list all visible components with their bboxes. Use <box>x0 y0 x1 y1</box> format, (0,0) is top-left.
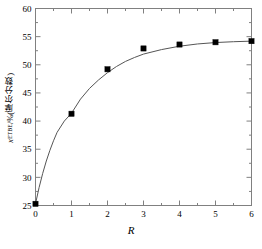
y-tick-label: 60 <box>23 4 33 14</box>
y-axis-tick-labels: 2530354045505560 <box>23 4 33 211</box>
data-point-marker <box>177 42 182 47</box>
y-tick-label: 25 <box>23 201 33 211</box>
x-tick-label: 6 <box>249 209 254 219</box>
y-tick-label: 35 <box>23 144 33 154</box>
x-axis-tick-labels: 0123456 <box>33 209 254 219</box>
y-tick-label: 40 <box>23 116 33 126</box>
axes-frame <box>36 9 252 206</box>
data-point-marker <box>249 39 254 44</box>
y-tick-label: 30 <box>23 173 33 183</box>
y-tick-label: 50 <box>23 60 33 70</box>
plot-area: 2530354045505560 0123456 <box>0 0 262 249</box>
x-tick-label: 3 <box>141 209 146 219</box>
y-tick-label: 45 <box>23 88 33 98</box>
x-tick-label: 4 <box>177 209 182 219</box>
chart-figure: xETBE/%(摩尔分数) 2530354045505560 0123456 R <box>0 0 262 249</box>
data-point-marker <box>105 67 110 72</box>
y-tick-label: 55 <box>23 32 33 42</box>
x-tick-label: 5 <box>213 209 218 219</box>
data-point-marker <box>213 40 218 45</box>
x-tick-label: 1 <box>69 209 74 219</box>
data-point-marker <box>141 46 146 51</box>
x-tick-label: 0 <box>33 209 38 219</box>
data-point-marker <box>69 111 74 116</box>
plot-frame <box>36 9 252 206</box>
x-axis-label: R <box>0 224 262 236</box>
data-point-marker <box>33 201 38 206</box>
x-tick-label: 2 <box>105 209 110 219</box>
